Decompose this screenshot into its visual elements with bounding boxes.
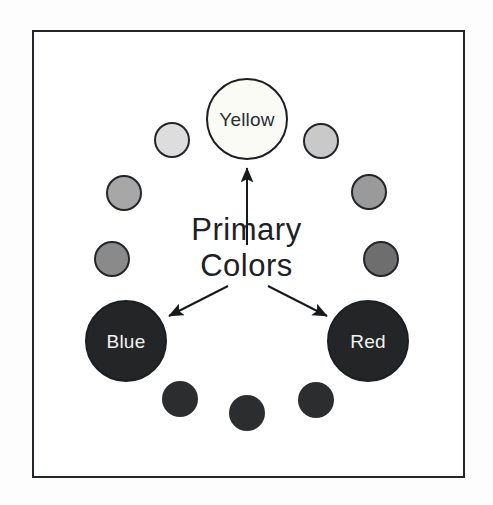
color-node-blue: Blue [85,300,167,382]
color-node-red: Red [327,300,409,382]
color-node-yellow: Yellow [206,78,288,160]
color-node-orange [351,174,387,210]
diagram-canvas: YellowRedBlue Primary Colors [0,0,493,505]
color-node-label-blue: Blue [107,332,146,351]
color-node-blue-violet [162,381,198,417]
color-node-green [106,175,142,211]
color-node-red-orange [363,241,399,277]
color-wheel: YellowRedBlue [0,0,493,505]
color-node-label-red: Red [350,332,385,351]
color-node-violet [229,395,265,431]
color-node-red-violet [298,382,334,418]
color-node-label-yellow: Yellow [219,110,274,129]
color-node-blue-green [94,241,130,277]
color-node-yellow-green [154,122,190,158]
color-node-yellow-orange [303,123,339,159]
